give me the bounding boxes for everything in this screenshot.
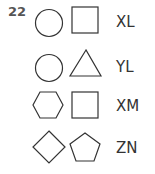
- diamond-icon: [33, 131, 65, 163]
- row-label: XM: [116, 97, 139, 115]
- circle-icon: [36, 55, 63, 82]
- row-label: XL: [116, 13, 135, 31]
- pentagon-icon: [70, 133, 100, 161]
- row-label: YL: [116, 58, 134, 76]
- row-label: ZN: [116, 139, 138, 157]
- square-icon: [72, 92, 98, 118]
- square-icon: [72, 7, 98, 33]
- hexagon-icon: [33, 92, 63, 118]
- triangle-icon: [70, 50, 101, 76]
- circle-icon: [36, 10, 63, 37]
